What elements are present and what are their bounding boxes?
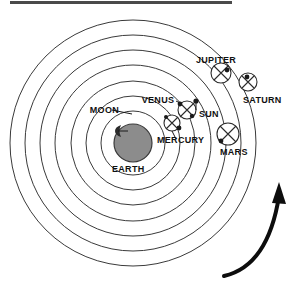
saturn-dot [245, 75, 250, 80]
label-mars: MARS [220, 147, 248, 157]
label-earth: EARTH [112, 164, 145, 174]
mercury-dot-2 [164, 115, 168, 119]
mars-dot [219, 139, 224, 144]
top-rule [10, 1, 232, 4]
label-jupiter: JUPITER [196, 55, 236, 65]
jupiter-dot [225, 68, 230, 73]
venus-dot-2 [190, 114, 194, 118]
earth-body [114, 124, 152, 162]
jupiter-marker [211, 63, 231, 83]
saturn-marker [239, 73, 257, 91]
label-venus: VENUS [142, 95, 175, 105]
sun-dot [193, 98, 198, 103]
label-mercury: MERCURY [157, 135, 204, 145]
geocentric-diagram: EARTH MOON MERCURY VENUS SUN MARS JUPITE… [0, 0, 296, 294]
label-saturn: SATURN [243, 95, 282, 105]
rotation-direction-arrow [224, 182, 286, 276]
label-sun: SUN [199, 109, 219, 119]
mercury-dot [177, 126, 182, 131]
diagram-canvas: EARTH MOON MERCURY VENUS SUN MARS JUPITE… [0, 0, 296, 294]
label-moon: MOON [90, 105, 119, 115]
mars-marker [217, 123, 239, 145]
venus-marker [176, 101, 196, 119]
